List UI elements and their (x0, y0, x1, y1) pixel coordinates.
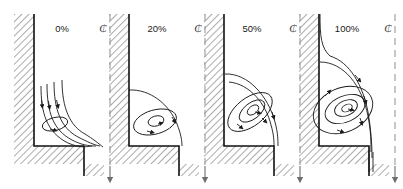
centerline-symbol-icon: ₵ (194, 22, 202, 34)
panel-3-label: 100% (335, 23, 360, 34)
panel-1-label: 20% (147, 23, 167, 34)
streamline-figure: 0% 20% (0, 0, 403, 189)
panel-0-label: 0% (55, 23, 69, 34)
centerline-symbol-icon: ₵ (384, 22, 392, 34)
streamline-diagram-svg: 0% 20% (0, 0, 403, 189)
centerline-symbol-icon: ₵ (289, 22, 297, 34)
panel-2-label: 50% (242, 23, 262, 34)
centerline-symbol-icon: ₵ (99, 22, 107, 34)
